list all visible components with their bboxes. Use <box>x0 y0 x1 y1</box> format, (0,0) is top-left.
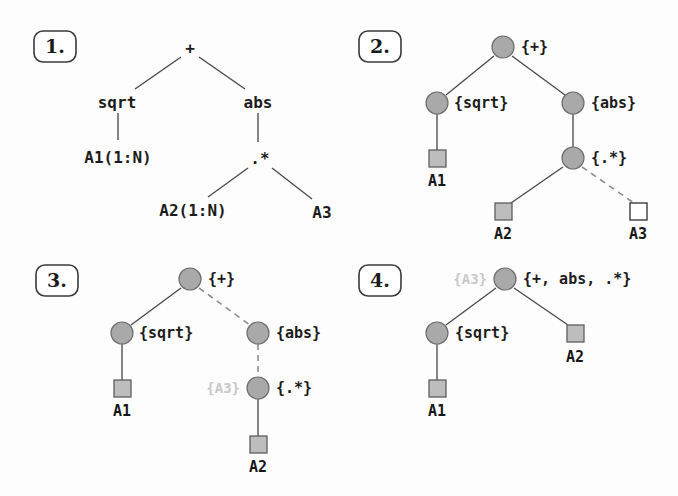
ghost-label-a3: {A3} <box>453 271 487 287</box>
badge-label: 4. <box>370 269 390 291</box>
figure-root: 1. + sqrt abs A1(1:N) .* A2(1:N) A3 2. <box>0 0 678 496</box>
edge-root-sqrt <box>446 288 496 325</box>
node-label-sqrt: {sqrt} <box>454 94 508 112</box>
edge-root-a2 <box>514 288 568 325</box>
node-circle-root <box>494 268 516 290</box>
node-label-root: {+, abs, .*} <box>523 270 631 288</box>
node-label-times: .* <box>250 149 269 168</box>
node-circle-root <box>179 268 201 290</box>
node-circle-sqrt <box>426 92 448 114</box>
node-label-abs: {abs} <box>591 94 636 112</box>
edge-root-right <box>199 57 245 89</box>
leaf-label-a2: A2 <box>249 458 267 476</box>
edge-root-sqrt <box>446 56 494 95</box>
leaf-label-a2: A2 <box>566 348 584 366</box>
node-label-a1: A1(1:N) <box>84 148 151 167</box>
edge-times-a2 <box>208 168 248 197</box>
node-label-times: {.*} <box>276 379 312 397</box>
panel-2: 2. {+} {sqrt} {abs} {.*} A1 A2 A3 <box>359 31 647 243</box>
node-label-abs: {abs} <box>276 324 321 342</box>
ghost-label-a3: {A3} <box>206 380 240 396</box>
node-label-sqrt: sqrt <box>98 93 137 112</box>
node-circle-abs <box>247 322 269 344</box>
node-square-a1 <box>429 150 446 167</box>
edge-times-a2 <box>511 167 563 203</box>
edge-root-sqrt <box>131 288 181 325</box>
panel-2-badge: 2. <box>359 31 401 62</box>
node-label-a2: A2(1:N) <box>159 201 226 220</box>
panel-4-badge: 4. <box>359 265 401 296</box>
edge-times-a3 <box>272 168 312 199</box>
expression-tree-figure: 1. + sqrt abs A1(1:N) .* A2(1:N) A3 2. <box>0 0 678 496</box>
node-square-a1 <box>114 380 131 397</box>
node-label-a3: A3 <box>312 203 331 222</box>
node-circle-times <box>247 377 269 399</box>
node-square-a2 <box>495 203 512 220</box>
node-square-a3-open <box>630 203 647 220</box>
node-label-sqrt: {sqrt} <box>455 324 509 342</box>
node-label-abs: abs <box>244 93 273 112</box>
panel-3-badge: 3. <box>36 265 78 296</box>
edge-root-abs <box>512 56 565 95</box>
leaf-label-a1: A1 <box>113 402 131 420</box>
node-square-a2 <box>250 436 267 453</box>
panel-1-badge: 1. <box>34 31 76 62</box>
node-label-times: {.*} <box>591 149 627 167</box>
node-label-root: {+} <box>521 38 548 56</box>
leaf-label-a2: A2 <box>494 225 512 243</box>
badge-label: 3. <box>47 269 67 291</box>
node-square-a1 <box>429 380 446 397</box>
node-label-root: {+} <box>208 270 235 288</box>
panel-1: 1. + sqrt abs A1(1:N) .* A2(1:N) A3 <box>34 31 332 222</box>
node-circle-sqrt <box>111 322 133 344</box>
panel-4: 4. {+, abs, .*} {A3} {sqrt} A2 A1 <box>359 265 631 420</box>
leaf-label-a1: A1 <box>428 402 446 420</box>
node-circle-sqrt <box>426 322 448 344</box>
node-label-sqrt: {sqrt} <box>139 324 193 342</box>
leaf-label-a3: A3 <box>629 225 647 243</box>
edge-times-a3-dashed <box>582 167 634 203</box>
node-circle-root <box>492 36 514 58</box>
node-label-root: + <box>185 39 195 58</box>
edge-root-left <box>135 57 181 89</box>
leaf-label-a1: A1 <box>428 172 446 190</box>
edge-root-abs-dashed <box>199 288 250 325</box>
badge-label: 2. <box>370 35 390 57</box>
node-circle-times <box>562 147 584 169</box>
badge-label: 1. <box>45 35 65 57</box>
panel-3: 3. {+} {sqrt} {abs} {.*} {A3} A1 A2 <box>36 265 321 476</box>
node-circle-abs <box>562 92 584 114</box>
node-square-a2 <box>567 325 584 342</box>
